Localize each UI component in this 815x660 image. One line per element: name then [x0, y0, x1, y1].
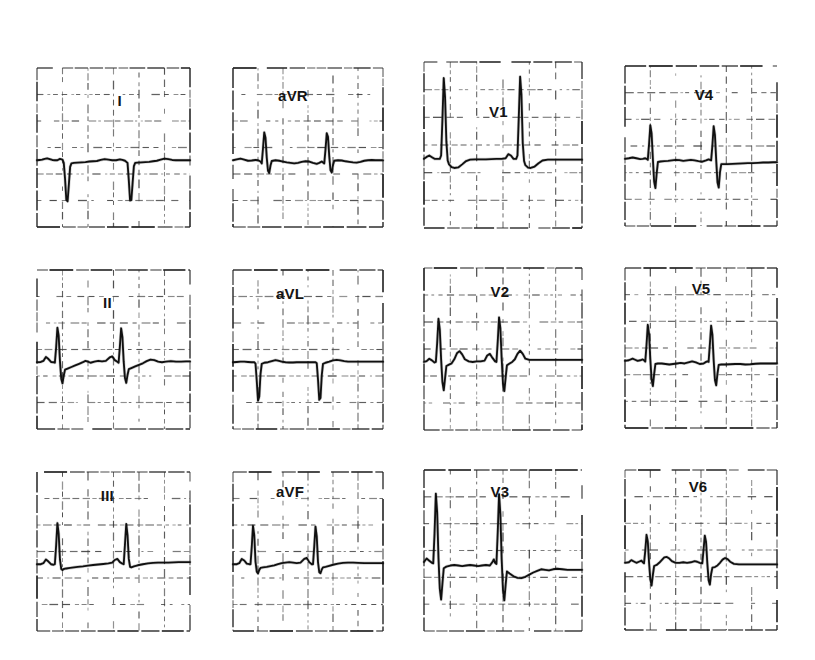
lead-label-avl: aVL — [276, 285, 304, 302]
ecg-panel-v2: V2 — [424, 268, 582, 430]
lead-label-i: I — [117, 92, 121, 109]
ecg-panel-avl: aVL — [233, 270, 383, 429]
lead-label-v3: V3 — [490, 483, 509, 500]
ecg-panel-ii: II — [37, 270, 190, 429]
lead-label-v4: V4 — [695, 86, 714, 103]
ecg-panel-i: I — [37, 68, 190, 227]
lead-label-v5: V5 — [692, 280, 711, 297]
ecg-panel-avf: aVF — [233, 472, 383, 631]
lead-label-iii: III — [101, 487, 114, 504]
lead-label-v6: V6 — [689, 478, 708, 495]
ecg-panel-iii: III — [37, 472, 190, 631]
lead-label-ii: II — [103, 294, 112, 311]
ecg-panel-v1: V1 — [424, 62, 582, 228]
ecg-panel-v6: V6 — [625, 470, 777, 630]
lead-label-avf: aVF — [276, 483, 304, 500]
ecg-panel-v5: V5 — [625, 268, 777, 428]
lead-label-v1: V1 — [489, 103, 508, 120]
ecg-sheet: IaVRV1V4IIaVLV2V5IIIaVFV3V6 — [0, 0, 815, 660]
ecg-svg: IaVRV1V4IIaVLV2V5IIIaVFV3V6 — [0, 0, 815, 660]
ecg-panel-v3: V3 — [424, 470, 582, 631]
ecg-panel-avr: aVR — [233, 68, 383, 227]
ecg-panel-v4: V4 — [625, 66, 777, 226]
lead-label-v2: V2 — [490, 283, 509, 300]
lead-label-avr: aVR — [278, 87, 308, 104]
